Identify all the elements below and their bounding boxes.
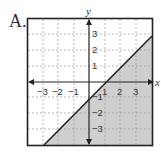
inequality-graph: y x −3 −2 −1 1 2 3 3 2 1 −1 −2 −3 xyxy=(0,0,161,153)
y-tick: −1 xyxy=(92,91,103,102)
y-tick: 2 xyxy=(92,44,97,55)
y-tick: 3 xyxy=(92,28,97,39)
x-tick: 3 xyxy=(133,86,138,97)
y-tick: −2 xyxy=(92,107,103,118)
x-tick: −1 xyxy=(68,86,79,97)
y-tick: −3 xyxy=(92,123,103,134)
y-tick: 1 xyxy=(92,60,97,71)
x-tick: −2 xyxy=(52,86,63,97)
y-axis-label: y xyxy=(85,5,91,17)
x-tick: 2 xyxy=(117,86,122,97)
x-axis-label: x xyxy=(154,76,160,88)
x-tick: −3 xyxy=(37,86,48,97)
